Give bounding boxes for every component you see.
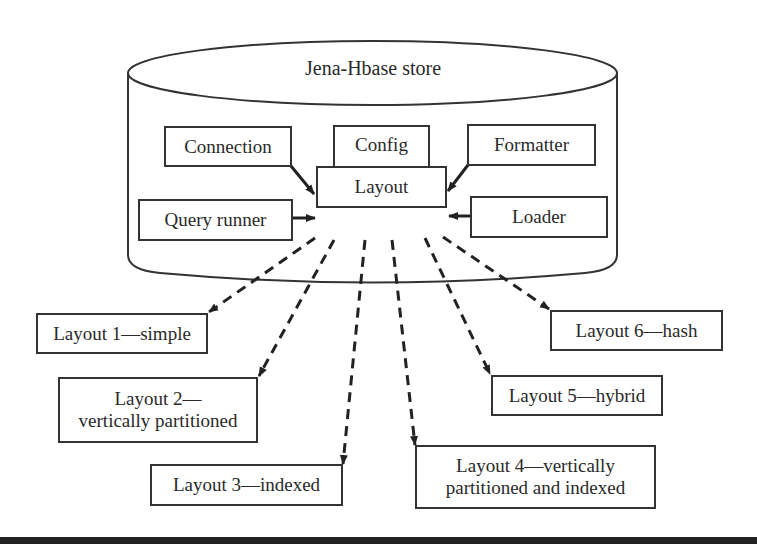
arrow-to-layout-2: [259, 240, 334, 376]
layout-4-label-line2: partitioned and indexed: [446, 477, 625, 499]
layout-arrows: [209, 237, 549, 464]
layout-1-box: Layout 1—simple: [36, 313, 208, 354]
arrow-formatter-to-layout: [448, 165, 468, 191]
layout-3-label: Layout 3—indexed: [173, 474, 320, 496]
layout-2-label-line1: Layout 2—: [114, 388, 201, 410]
layout-2-box: Layout 2— vertically partitioned: [58, 377, 258, 443]
layout-2-label-line2: vertically partitioned: [79, 410, 238, 432]
store-title: Jena-Hbase store: [128, 57, 618, 80]
layout-3-box: Layout 3—indexed: [150, 464, 343, 506]
layout-5-label: Layout 5—hybrid: [509, 385, 646, 407]
layout-1-label: Layout 1—simple: [53, 323, 191, 345]
query-runner-box: Query runner: [138, 199, 293, 241]
layout-box: Layout: [316, 166, 447, 208]
loader-label: Loader: [512, 206, 566, 228]
config-box: Config: [333, 125, 430, 168]
layout-label: Layout: [355, 176, 409, 198]
layout-6-label: Layout 6—hash: [576, 320, 698, 342]
formatter-label: Formatter: [494, 134, 569, 156]
connection-label: Connection: [184, 136, 272, 158]
loader-box: Loader: [470, 196, 608, 238]
config-label: Config: [355, 134, 408, 156]
layout-5-box: Layout 5—hybrid: [491, 375, 663, 416]
arrow-connection-to-layout: [291, 166, 314, 194]
layout-4-box: Layout 4—vertically partitioned and inde…: [415, 445, 656, 509]
arrow-to-layout-3: [343, 240, 365, 464]
layout-4-label-line1: Layout 4—vertically: [456, 455, 615, 477]
arrow-to-layout-5: [425, 238, 490, 374]
arrow-to-layout-4: [392, 240, 415, 445]
arrow-to-layout-6: [443, 237, 549, 309]
query-runner-label: Query runner: [165, 209, 267, 231]
formatter-box: Formatter: [467, 124, 596, 166]
bottom-rule: [0, 537, 757, 544]
connection-box: Connection: [164, 126, 292, 167]
layout-6-box: Layout 6—hash: [550, 310, 723, 351]
